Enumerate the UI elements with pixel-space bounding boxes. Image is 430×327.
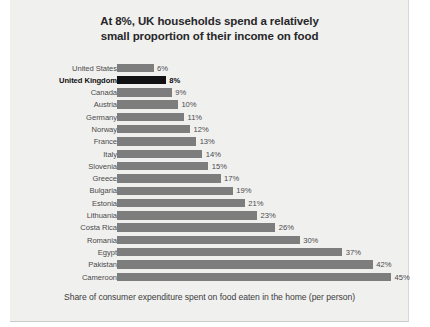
bar-segment (117, 76, 166, 84)
bar-segment (117, 88, 172, 96)
bar-category-label: United States (21, 63, 117, 74)
bar-category-label: Costa Rica (21, 222, 117, 233)
bar-segment (117, 113, 184, 121)
bar-value-label: 10% (181, 99, 196, 110)
bar-segment (117, 260, 373, 268)
bar-category-label: Italy (21, 149, 117, 160)
bar-segment (117, 162, 208, 170)
bar-row: Cameroon45% (10, 271, 409, 283)
bar-value-label: 45% (395, 272, 410, 283)
bar-segment (117, 199, 245, 207)
bar-segment (117, 211, 257, 219)
bar-value-label: 6% (157, 63, 168, 74)
chart-title-line-2: small proportion of their income on food (10, 29, 409, 44)
bar-segment (117, 137, 196, 145)
bar-category-label: Lithuania (21, 210, 117, 221)
bar-value-label: 13% (200, 136, 215, 147)
bar-row: Norway12% (10, 123, 409, 135)
bar-category-label: France (21, 136, 117, 147)
chart-footnote: Share of consumer expenditure spent on f… (10, 292, 409, 302)
bar-row: Pakistan42% (10, 259, 409, 271)
bar-segment (117, 150, 202, 158)
chart-figure: At 8%, UK households spend a relatively … (0, 0, 430, 327)
bar-value-label: 19% (236, 185, 251, 196)
bar-value-label: 21% (248, 198, 263, 209)
bar-segment (117, 223, 275, 231)
bar-row: United Kingdom8% (10, 74, 409, 86)
bar-value-label: 8% (169, 75, 180, 86)
chart-title-line-1: At 8%, UK households spend a relatively (10, 14, 409, 29)
bar-category-label: Slovenia (21, 161, 117, 172)
bar-row: Slovenia15% (10, 160, 409, 172)
bar-row: Germany11% (10, 111, 409, 123)
bar-row: Greece17% (10, 173, 409, 185)
bar-segment (117, 125, 190, 133)
bar-value-label: 11% (187, 112, 202, 123)
bar-category-label: Estonia (21, 198, 117, 209)
bar-category-label: Canada (21, 87, 117, 98)
bar-category-label: United Kingdom (21, 75, 117, 86)
chart-title: At 8%, UK households spend a relatively … (10, 14, 409, 43)
bar-value-label: 9% (175, 87, 186, 98)
bar-category-label: Bulgaria (21, 185, 117, 196)
bar-value-label: 12% (194, 124, 209, 135)
bar-segment (117, 174, 221, 182)
bar-row: Austria10% (10, 99, 409, 111)
bar-category-label: Egypt (21, 247, 117, 258)
bar-category-label: Greece (21, 173, 117, 184)
bar-segment (117, 187, 233, 195)
bar-row: Lithuania23% (10, 210, 409, 222)
bar-value-label: 15% (212, 161, 227, 172)
bar-row: Egypt37% (10, 246, 409, 258)
bar-value-label: 26% (279, 222, 294, 233)
bar-value-label: 23% (261, 210, 276, 221)
bar-category-label: Germany (21, 112, 117, 123)
bar-value-label: 17% (224, 173, 239, 184)
bar-value-label: 30% (303, 235, 318, 246)
bar-value-label: 42% (376, 259, 391, 270)
bar-row: Estonia21% (10, 197, 409, 209)
bar-segment (117, 273, 391, 281)
bar-category-label: Pakistan (21, 259, 117, 270)
bar-row: Canada9% (10, 87, 409, 99)
bar-row: Italy14% (10, 148, 409, 160)
bar-category-label: Norway (21, 124, 117, 135)
bar-row: Romania30% (10, 234, 409, 246)
bar-row: Bulgaria19% (10, 185, 409, 197)
bar-value-label: 37% (346, 247, 361, 258)
bar-row: United States6% (10, 62, 409, 74)
bar-row: France13% (10, 136, 409, 148)
bar-segment (117, 100, 178, 108)
bar-value-label: 14% (206, 149, 221, 160)
bar-row: Costa Rica26% (10, 222, 409, 234)
bar-category-label: Austria (21, 99, 117, 110)
bar-category-label: Cameroon (21, 272, 117, 283)
bar-segment (117, 64, 154, 72)
bar-segment (117, 236, 300, 244)
bar-chart-plot-area: United States6%United Kingdom8%Canada9%A… (10, 62, 409, 284)
bar-category-label: Romania (21, 235, 117, 246)
bar-segment (117, 248, 342, 256)
